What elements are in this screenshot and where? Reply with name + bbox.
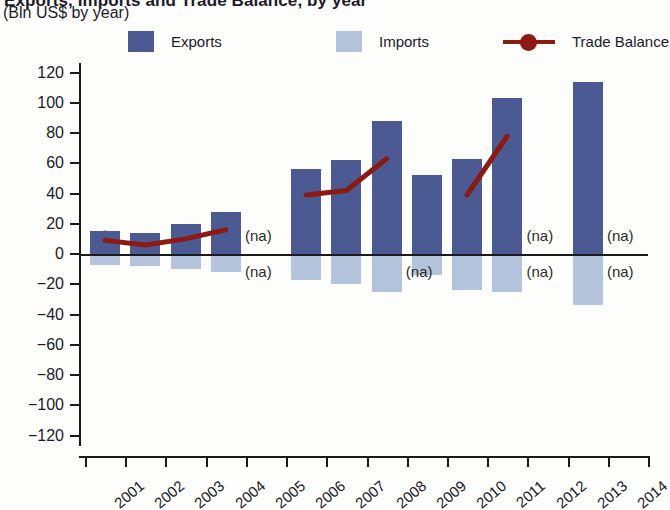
y-tick bbox=[70, 253, 79, 255]
y-tick bbox=[70, 102, 79, 104]
bar-imports-2004[interactable] bbox=[211, 254, 241, 272]
y-tick bbox=[70, 374, 79, 376]
y-tick-label: 20 bbox=[46, 215, 64, 233]
y-tick-label: 0 bbox=[55, 245, 64, 263]
y-tick-label: −60 bbox=[37, 336, 64, 354]
y-tick-label: 40 bbox=[46, 185, 64, 203]
trade-balance-marker-icon bbox=[503, 31, 555, 52]
y-tick-label: −80 bbox=[37, 366, 64, 384]
x-tick-label-2012: 2012 bbox=[553, 477, 589, 510]
x-tick-label-2007: 2007 bbox=[352, 477, 388, 510]
bar-exports-2010[interactable] bbox=[452, 159, 482, 254]
na-label-2005-above: (na) bbox=[245, 227, 272, 244]
x-tick-label-2013: 2013 bbox=[593, 477, 629, 510]
y-tick-label: −20 bbox=[37, 275, 64, 293]
chart-legend: Exports Imports Trade Balance bbox=[128, 28, 656, 54]
y-tick bbox=[70, 162, 79, 164]
x-tick-label-2005: 2005 bbox=[272, 477, 308, 510]
bar-exports-2009[interactable] bbox=[412, 175, 442, 254]
x-tick bbox=[407, 456, 409, 467]
x-tick-label-2009: 2009 bbox=[433, 477, 469, 510]
bar-imports-2007[interactable] bbox=[331, 254, 361, 284]
y-tick bbox=[70, 404, 79, 406]
x-tick-label-2004: 2004 bbox=[231, 477, 267, 510]
x-tick bbox=[487, 456, 489, 467]
legend-label-exports: Exports bbox=[171, 33, 222, 50]
x-tick bbox=[608, 456, 610, 467]
bar-exports-2003[interactable] bbox=[171, 224, 201, 254]
bar-imports-2013[interactable] bbox=[573, 254, 603, 305]
legend-label-trade-balance: Trade Balance bbox=[572, 33, 669, 50]
bar-imports-2003[interactable] bbox=[171, 254, 201, 269]
bar-imports-2008[interactable] bbox=[372, 254, 402, 292]
x-tick bbox=[286, 456, 288, 467]
na-label-2012-below: (na) bbox=[526, 263, 553, 280]
bar-exports-2004[interactable] bbox=[211, 212, 241, 254]
x-tick bbox=[206, 456, 208, 467]
na-label-2012-above: (na) bbox=[526, 227, 553, 244]
x-axis-line bbox=[79, 456, 648, 458]
x-tick bbox=[125, 456, 127, 467]
x-tick bbox=[246, 456, 248, 467]
y-tick-label: 120 bbox=[37, 64, 64, 82]
bar-exports-2006[interactable] bbox=[291, 169, 321, 254]
y-axis-labels: 120100806040200−20−40−60−80−100−120 bbox=[0, 63, 72, 446]
legend-item-exports[interactable]: Exports bbox=[128, 28, 222, 54]
x-tick bbox=[527, 456, 529, 467]
zero-baseline bbox=[79, 254, 648, 256]
chart-subtitle: (Bln US$ by year) bbox=[3, 4, 129, 22]
x-tick bbox=[326, 456, 328, 467]
y-tick-label: −40 bbox=[37, 306, 64, 324]
y-tick bbox=[70, 283, 79, 285]
y-tick bbox=[70, 344, 79, 346]
plot-area: (na)(na)(na)(na)(na)(na)(na) 20012002200… bbox=[79, 63, 648, 446]
x-tick bbox=[85, 456, 87, 467]
x-tick-label-2011: 2011 bbox=[513, 477, 549, 510]
na-label-2005-below: (na) bbox=[245, 263, 272, 280]
x-tick bbox=[165, 456, 167, 467]
bar-exports-2002[interactable] bbox=[130, 233, 160, 254]
legend-item-imports[interactable]: Imports bbox=[336, 28, 429, 54]
y-tick-label: 100 bbox=[37, 94, 64, 112]
y-tick bbox=[70, 193, 79, 195]
x-tick-label-2001: 2001 bbox=[111, 477, 147, 510]
na-label-2014-below: (na) bbox=[607, 263, 634, 280]
bar-exports-2001[interactable] bbox=[90, 231, 120, 254]
na-label-2014-above: (na) bbox=[607, 227, 634, 244]
na-label-2009-below: (na) bbox=[406, 263, 433, 280]
x-tick-label-2010: 2010 bbox=[473, 477, 509, 510]
y-tick bbox=[70, 314, 79, 316]
exports-swatch-icon bbox=[128, 31, 154, 52]
x-tick-label-2006: 2006 bbox=[312, 477, 348, 510]
y-tick-label: 60 bbox=[46, 154, 64, 172]
bar-exports-2007[interactable] bbox=[331, 160, 361, 254]
y-tick bbox=[70, 132, 79, 134]
bar-imports-2006[interactable] bbox=[291, 254, 321, 280]
x-tick-label-2008: 2008 bbox=[392, 477, 428, 510]
bar-exports-2011[interactable] bbox=[492, 98, 522, 254]
x-tick bbox=[568, 456, 570, 467]
y-tick bbox=[70, 435, 79, 437]
x-tick-label-2002: 2002 bbox=[151, 477, 187, 510]
legend-item-trade-balance[interactable]: Trade Balance bbox=[503, 28, 669, 54]
bar-imports-2011[interactable] bbox=[492, 254, 522, 292]
y-tick bbox=[70, 223, 79, 225]
x-tick-label-2003: 2003 bbox=[191, 477, 227, 510]
x-tick-label-2014: 2014 bbox=[634, 477, 670, 510]
x-tick bbox=[447, 456, 449, 467]
bar-imports-2010[interactable] bbox=[452, 254, 482, 290]
y-tick-label: −100 bbox=[28, 396, 64, 414]
legend-label-imports: Imports bbox=[379, 33, 429, 50]
bar-exports-2013[interactable] bbox=[573, 82, 603, 254]
y-tick-label: −120 bbox=[28, 427, 64, 445]
y-tick bbox=[70, 72, 79, 74]
imports-swatch-icon bbox=[336, 31, 362, 52]
y-tick-label: 80 bbox=[46, 124, 64, 142]
bar-exports-2008[interactable] bbox=[372, 121, 402, 254]
x-tick bbox=[367, 456, 369, 467]
x-tick bbox=[648, 456, 650, 467]
